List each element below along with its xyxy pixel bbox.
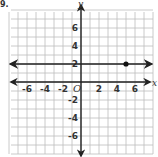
x-tick-label: -4: [40, 84, 50, 94]
y-tick-label: 6: [72, 23, 78, 33]
y-tick-label: -2: [68, 95, 78, 105]
x-tick-label: 2: [96, 84, 102, 94]
plotted-points: [123, 61, 128, 66]
y-tick-label: 4: [72, 41, 78, 51]
x-tick-label: 6: [132, 84, 138, 94]
problem-number: 9.: [0, 0, 9, 9]
point-marker: [123, 61, 128, 66]
y-axis-label: y: [77, 0, 84, 9]
coordinate-plane: 9. -6-4-2246642-2-4-6 x y O: [0, 0, 158, 157]
x-tick-label: -6: [22, 84, 32, 94]
x-axis-label: x: [152, 78, 157, 88]
x-tick-label: -2: [58, 84, 68, 94]
y-tick-label: -4: [68, 113, 78, 123]
x-tick-label: 4: [114, 84, 120, 94]
y-tick-label: -6: [68, 131, 78, 141]
origin-label: O: [73, 83, 81, 94]
